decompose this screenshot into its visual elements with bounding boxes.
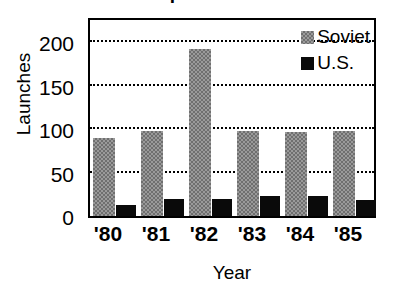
legend-entry: Soviet (301, 25, 370, 49)
y-axis-tick-label: 150 (4, 77, 74, 98)
legend-label: Soviet (317, 27, 370, 47)
bar-group (93, 20, 141, 216)
x-axis-title: Year (88, 262, 376, 284)
bar-us (356, 200, 376, 216)
bar-soviet (189, 49, 211, 216)
bar-us (116, 205, 136, 216)
x-axis-tick-label: '85 (324, 222, 372, 246)
y-axis-tick-label: 100 (4, 120, 74, 141)
bar-group (141, 20, 189, 216)
bar-group (237, 20, 285, 216)
x-axis-tick-label: '81 (132, 222, 180, 246)
bar-us (212, 199, 232, 216)
chart-legend: SovietU.S. (301, 25, 370, 75)
bar-soviet (333, 131, 355, 216)
x-axis-tick-label: '83 (228, 222, 276, 246)
bar-soviet (141, 131, 163, 216)
x-axis-tick-label: '80 (84, 222, 132, 246)
bar-soviet (237, 131, 259, 216)
bar-group (189, 20, 237, 216)
bar-soviet (93, 138, 115, 216)
bar-us (164, 199, 184, 216)
black-square-icon (301, 57, 314, 70)
plot-inner: SovietU.S. (90, 20, 374, 216)
y-axis-tick-label: 200 (4, 33, 74, 54)
space-launches-bar-chart: Space Launches Launches Year SovietU.S. … (0, 0, 398, 297)
chart-title: Space Launches (88, 0, 376, 3)
legend-label: U.S. (317, 53, 354, 73)
legend-entry: U.S. (301, 51, 354, 75)
y-axis-tick-label: 50 (4, 164, 74, 185)
x-axis-tick-label: '82 (180, 222, 228, 246)
x-axis-tick-label: '84 (276, 222, 324, 246)
bar-us (308, 196, 328, 216)
bar-soviet (285, 132, 307, 216)
y-axis-tick-label: 0 (4, 207, 74, 228)
bar-us (260, 196, 280, 216)
plot-area: SovietU.S. (88, 18, 376, 218)
gray-square-icon (301, 31, 314, 44)
